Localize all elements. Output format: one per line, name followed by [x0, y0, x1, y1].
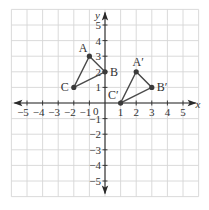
- y-tick-label: −3: [89, 144, 101, 156]
- vertex-label: A: [79, 41, 88, 55]
- y-tick-label: −1: [89, 113, 101, 125]
- vertex-label: C: [61, 80, 69, 94]
- y-tick-label: 4: [96, 35, 102, 47]
- x-tick-label: 4: [165, 106, 171, 118]
- x-tick-label: −5: [17, 106, 29, 118]
- x-tick-label: −4: [33, 106, 45, 118]
- vertex-point: [102, 69, 107, 74]
- vertex-label: B′: [157, 80, 168, 94]
- x-tick-label: 1: [118, 106, 124, 118]
- vertex-point: [149, 85, 154, 90]
- coordinate-plane-svg: xy0−5−4−3−2−11234554321−1−2−3−4−5 ABCA′B…: [0, 0, 209, 210]
- vertex-point: [71, 85, 76, 90]
- coordinate-plane-diagram: xy0−5−4−3−2−11234554321−1−2−3−4−5 ABCA′B…: [0, 0, 209, 210]
- x-tick-label: 2: [133, 106, 139, 118]
- y-tick-label: 1: [96, 81, 102, 93]
- y-tick-label: −5: [89, 175, 101, 187]
- y-tick-label: −4: [89, 159, 101, 171]
- triangle-abc-prime: A′B′C′: [108, 55, 168, 106]
- vertex-label: A′: [133, 55, 145, 69]
- x-tick-label: 3: [149, 106, 155, 118]
- vertex-label: B: [110, 65, 118, 79]
- vertex-point: [87, 54, 92, 59]
- y-tick-label: 5: [96, 19, 102, 31]
- vertex-point: [134, 69, 139, 74]
- vertex-point: [118, 100, 123, 105]
- axes: [13, 11, 196, 194]
- y-tick-label: 3: [96, 50, 102, 62]
- x-tick-label: 5: [180, 106, 186, 118]
- y-tick-label: −2: [89, 128, 101, 140]
- x-axis-label: x: [195, 98, 201, 110]
- vertex-label: C′: [108, 88, 119, 102]
- x-tick-label: −2: [64, 106, 76, 118]
- x-tick-label: −3: [48, 106, 60, 118]
